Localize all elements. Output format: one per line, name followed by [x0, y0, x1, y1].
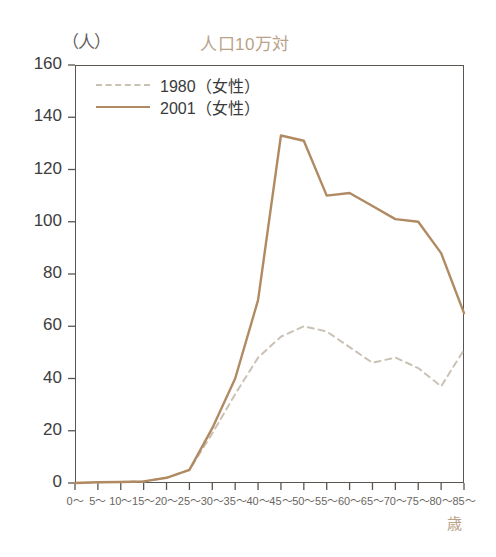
x-tick-label: 25～: [178, 492, 201, 508]
x-tick-label: 5～: [89, 492, 106, 508]
legend-swatch-dashed-icon: [96, 84, 150, 86]
chart-canvas: （人） 人口10万対 歳 020406080100120140160 0～5～1…: [0, 0, 496, 557]
legend-label-1980: 1980（女性）: [160, 73, 260, 97]
legend-label-2001: 2001（女性）: [160, 95, 260, 119]
x-tick-label: 65～: [361, 492, 384, 508]
x-tick-label: 80～: [429, 492, 452, 508]
x-tick-label: 20～: [155, 492, 178, 508]
x-tick-label: 15～: [132, 492, 155, 508]
x-tick-label: 40～: [246, 492, 269, 508]
legend-item-2001: 2001（女性）: [96, 96, 260, 118]
legend-item-1980: 1980（女性）: [96, 74, 260, 96]
y-tick-label: 20: [10, 420, 62, 440]
chart-legend: 1980（女性） 2001（女性）: [96, 74, 260, 118]
y-axis-unit-label: （人）: [62, 28, 110, 53]
x-axis-unit-label: 歳: [447, 512, 462, 533]
y-tick-label: 0: [10, 472, 62, 492]
y-tick-label: 60: [10, 315, 62, 335]
x-tick-label: 70～: [384, 492, 407, 508]
x-tick-label: 0～: [66, 492, 83, 508]
legend-swatch-solid-icon: [96, 106, 150, 108]
x-tick-label: 85～: [452, 492, 475, 508]
x-tick-label: 45～: [269, 492, 292, 508]
y-tick-label: 80: [10, 263, 62, 283]
x-tick-label: 75～: [407, 492, 430, 508]
y-tick-label: 120: [10, 159, 62, 179]
y-tick-label: 100: [10, 211, 62, 231]
y-tick-label: 160: [10, 54, 62, 74]
y-tick-label: 40: [10, 368, 62, 388]
x-tick-label: 10～: [109, 492, 132, 508]
x-tick-label: 55～: [315, 492, 338, 508]
chart-title: 人口10万対: [200, 30, 290, 55]
x-tick-label: 30～: [201, 492, 224, 508]
plot-area: [75, 65, 464, 483]
x-tick-label: 50～: [292, 492, 315, 508]
x-tick-label: 60～: [338, 492, 361, 508]
x-tick-label: 35～: [224, 492, 247, 508]
y-tick-label: 140: [10, 106, 62, 126]
